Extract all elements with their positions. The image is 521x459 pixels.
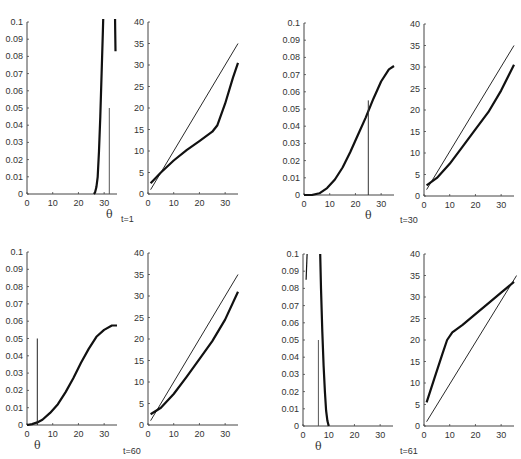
- y-tick-label: 0.09: [5, 264, 23, 274]
- x-tick-label: 10: [445, 430, 455, 440]
- x-tick-label: 20: [470, 200, 480, 210]
- y-tick-label: 35: [410, 271, 420, 281]
- y-tick-label: 15: [134, 125, 144, 135]
- x-tick-label: 30: [376, 199, 386, 209]
- y-tick-label: 10: [134, 377, 144, 387]
- y-tick-label: 0.01: [282, 173, 300, 183]
- y-tick-label: 20: [134, 334, 144, 344]
- chart-t30-density: 010203000.010.020.030.040.050.060.070.08…: [282, 18, 394, 222]
- y-tick-label: 15: [410, 127, 420, 137]
- y-tick-label: 0.02: [282, 156, 300, 166]
- y-tick-label: 40: [134, 17, 144, 27]
- series-density-left: [306, 254, 307, 280]
- y-tick-label: 30: [410, 62, 420, 72]
- time-label-t60: t=60: [123, 446, 141, 456]
- series-identity: [427, 276, 517, 422]
- x-tick-label: 30: [496, 430, 506, 440]
- y-tick-label: 0.03: [282, 138, 300, 148]
- chart-t1-comparison: 01020300510152025303540: [134, 17, 238, 208]
- x-tick-label: 10: [169, 198, 179, 208]
- y-tick-label: 0.06: [282, 87, 300, 97]
- x-tick-label: 0: [24, 429, 29, 439]
- y-tick-label: 10: [410, 378, 420, 388]
- y-tick-label: 0: [294, 421, 299, 431]
- x-tick-label: 10: [445, 200, 455, 210]
- x-tick-label: 10: [325, 199, 335, 209]
- x-tick-label: 0: [421, 200, 426, 210]
- y-tick-label: 0.09: [5, 34, 23, 44]
- y-tick-label: 0.01: [5, 403, 23, 413]
- y-tick-label: 0: [295, 190, 300, 200]
- y-tick-label: 25: [410, 314, 420, 324]
- y-tick-label: 0.04: [5, 351, 23, 361]
- y-tick-label: 0.03: [281, 369, 299, 379]
- y-tick-label: 0.1: [286, 249, 299, 259]
- y-tick-label: 35: [134, 270, 144, 280]
- x-tick-label: 30: [375, 430, 385, 440]
- y-tick-label: 0.08: [282, 52, 300, 62]
- y-tick-label: 30: [134, 291, 144, 301]
- y-tick-label: 0.06: [5, 316, 23, 326]
- x-tick-label: 20: [350, 199, 360, 209]
- y-tick-label: 0.07: [282, 70, 300, 80]
- series-estimate: [427, 282, 514, 403]
- x-tick-label: 0: [24, 198, 29, 208]
- time-label-t61: t=61: [400, 446, 418, 456]
- y-tick-label: 0.03: [5, 368, 23, 378]
- y-tick-label: 0.07: [281, 301, 299, 311]
- series-density: [320, 254, 329, 426]
- chart-t61-density: 010203000.010.020.030.040.050.060.070.08…: [281, 249, 393, 453]
- x-tick-label: 30: [220, 198, 230, 208]
- y-tick-label: 0.1: [287, 18, 300, 28]
- series-density-right: [115, 5, 116, 51]
- y-tick-label: 0.03: [5, 137, 23, 147]
- series-identity: [151, 275, 238, 421]
- y-tick-label: 0.08: [5, 282, 23, 292]
- chart-t1-density: 010203000.010.020.030.040.050.060.070.08…: [5, 5, 117, 221]
- series-density: [94, 5, 104, 194]
- x-tick-label: 10: [48, 429, 58, 439]
- x-tick-label: 20: [470, 430, 480, 440]
- y-tick-label: 0: [415, 191, 420, 201]
- y-tick-label: 0.02: [281, 387, 299, 397]
- y-tick-label: 0.01: [281, 404, 299, 414]
- x-tick-label: 10: [48, 198, 58, 208]
- y-tick-label: 0.05: [5, 103, 23, 113]
- x-tick-label: 30: [99, 429, 109, 439]
- y-tick-label: 40: [134, 248, 144, 258]
- x-axis-label: θ: [365, 209, 372, 222]
- x-tick-label: 0: [421, 430, 426, 440]
- time-label-t1: t=1: [121, 214, 134, 224]
- y-tick-label: 40: [410, 249, 420, 259]
- series-estimate: [151, 63, 238, 184]
- y-tick-label: 0.1: [10, 17, 23, 27]
- y-tick-label: 0.02: [5, 155, 23, 165]
- x-tick-label: 30: [496, 200, 506, 210]
- y-tick-label: 30: [134, 60, 144, 70]
- x-tick-label: 10: [324, 430, 334, 440]
- y-tick-label: 0.05: [5, 334, 23, 344]
- y-tick-label: 0.08: [281, 283, 299, 293]
- y-tick-label: 0.04: [281, 352, 299, 362]
- x-tick-label: 0: [145, 429, 150, 439]
- x-tick-label: 20: [73, 198, 83, 208]
- y-tick-label: 0.04: [282, 121, 300, 131]
- x-tick-label: 10: [169, 429, 179, 439]
- x-tick-label: 20: [194, 198, 204, 208]
- y-tick-label: 0.06: [5, 86, 23, 96]
- y-tick-label: 0.06: [281, 318, 299, 328]
- series-identity: [151, 44, 238, 190]
- y-tick-label: 0: [415, 421, 420, 431]
- y-tick-label: 0.05: [282, 104, 300, 114]
- y-tick-label: 5: [415, 170, 420, 180]
- x-tick-label: 20: [73, 429, 83, 439]
- y-tick-label: 0: [18, 189, 23, 199]
- y-tick-label: 20: [134, 103, 144, 113]
- x-axis-label: θ: [106, 208, 113, 221]
- y-tick-label: 0.01: [5, 172, 23, 182]
- chart-t61-comparison: 01020300510152025303540: [410, 249, 517, 440]
- x-tick-label: 0: [145, 198, 150, 208]
- y-tick-label: 15: [134, 356, 144, 366]
- y-tick-label: 35: [410, 41, 420, 51]
- chart-t60-density: 010203000.010.020.030.040.050.060.070.08…: [5, 247, 117, 452]
